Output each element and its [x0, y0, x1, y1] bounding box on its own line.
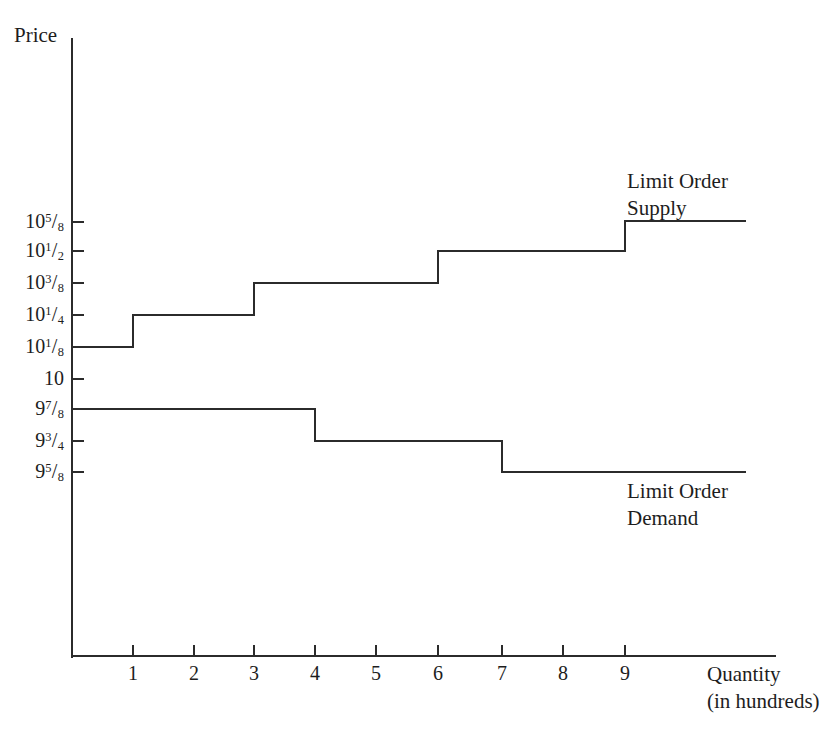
y-tick-mark — [73, 221, 84, 223]
x-axis-title-sub: (in hundreds) — [707, 688, 820, 715]
supply-step-riser — [624, 220, 626, 252]
y-axis-title: Price — [14, 24, 57, 46]
supply-curve-label-line2: Supply — [627, 195, 728, 222]
y-tick-mark — [73, 378, 84, 380]
demand-step-segment — [501, 471, 746, 473]
demand-curve-label: Limit Order Demand — [627, 478, 728, 532]
x-tick-label: 9 — [610, 661, 640, 685]
demand-step-segment — [71, 408, 316, 410]
y-tick-mark — [73, 471, 84, 473]
x-tick-mark — [132, 645, 134, 656]
y-axis-line — [71, 38, 73, 658]
x-tick-label: 2 — [179, 661, 209, 685]
supply-curve-label: Limit Order Supply — [627, 168, 728, 222]
y-tick-label: 95/8 — [0, 461, 64, 481]
supply-step-segment — [253, 282, 439, 284]
x-tick-mark — [193, 645, 195, 656]
y-tick-label: 105/8 — [0, 211, 64, 231]
demand-step-riser — [501, 440, 503, 473]
x-tick-mark — [501, 645, 503, 656]
y-tick-label: 101/4 — [0, 304, 64, 324]
x-tick-mark — [562, 645, 564, 656]
supply-step-riser — [132, 314, 134, 348]
supply-step-segment — [437, 250, 626, 252]
x-tick-mark — [624, 645, 626, 656]
y-tick-label: 97/8 — [0, 398, 64, 418]
x-tick-label: 8 — [548, 661, 578, 685]
y-tick-mark — [73, 282, 84, 284]
x-tick-label: 5 — [361, 661, 391, 685]
x-tick-mark — [437, 645, 439, 656]
x-tick-mark — [314, 645, 316, 656]
demand-step-segment — [314, 440, 503, 442]
y-tick-mark — [73, 314, 84, 316]
demand-curve-label-line2: Demand — [627, 505, 728, 532]
supply-step-riser — [253, 282, 255, 316]
x-tick-label: 1 — [118, 661, 148, 685]
y-tick-label: 10 — [0, 368, 64, 388]
x-tick-mark — [253, 645, 255, 656]
x-axis-line — [71, 655, 776, 657]
demand-curve-label-line1: Limit Order — [627, 478, 728, 505]
y-tick-label: 101/2 — [0, 240, 64, 260]
y-tick-label: 93/4 — [0, 430, 64, 450]
y-tick-mark — [73, 250, 84, 252]
supply-curve-label-line1: Limit Order — [627, 168, 728, 195]
x-tick-mark — [375, 645, 377, 656]
x-tick-label: 6 — [423, 661, 453, 685]
supply-step-segment — [71, 346, 134, 348]
x-tick-label: 4 — [300, 661, 330, 685]
supply-step-riser — [437, 250, 439, 284]
x-tick-label: 7 — [487, 661, 517, 685]
demand-step-riser — [314, 408, 316, 442]
x-axis-title-main: Quantity — [707, 661, 820, 688]
y-tick-mark — [73, 440, 84, 442]
y-tick-label: 103/8 — [0, 272, 64, 292]
x-tick-label: 3 — [239, 661, 269, 685]
supply-step-segment — [132, 314, 255, 316]
limit-order-book-chart: Price 105/8 101/2 103/8 101/4 101/8 10 9… — [0, 0, 837, 736]
y-tick-label: 101/8 — [0, 336, 64, 356]
x-axis-title: Quantity (in hundreds) — [707, 661, 820, 715]
